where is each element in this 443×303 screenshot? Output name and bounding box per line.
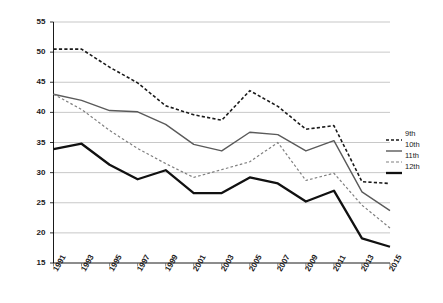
y-tick-label: 15	[24, 259, 46, 267]
gridlines	[54, 22, 391, 263]
legend-label: 11th	[405, 152, 419, 160]
y-tick-label: 30	[24, 169, 46, 177]
legend-item-10th[interactable]: 10th	[386, 139, 442, 150]
chart-legend: 9th10th11th12th	[386, 128, 442, 172]
y-tick-label: 35	[24, 139, 46, 147]
legend-swatch-icon	[386, 130, 402, 138]
y-tick-label: 40	[24, 108, 46, 116]
legend-label: 12th	[405, 163, 420, 171]
series-lines	[54, 49, 391, 247]
y-tick-label: 25	[24, 199, 46, 207]
legend-label: 9th	[405, 130, 415, 138]
line-chart: 152025303540455055 199119931995199719992…	[0, 0, 443, 303]
legend-item-12th[interactable]: 12th	[386, 161, 442, 172]
legend-item-11th[interactable]: 11th	[386, 150, 442, 161]
legend-item-9th[interactable]: 9th	[386, 128, 442, 139]
y-tick-label: 20	[24, 229, 46, 237]
y-tick-label: 50	[24, 48, 46, 56]
y-tick-label: 55	[24, 18, 46, 26]
legend-swatch-icon	[386, 141, 402, 149]
y-tick-label: 45	[24, 78, 46, 86]
x-tick-marks	[0, 0, 390, 267]
legend-swatch-icon	[386, 163, 402, 171]
legend-label: 10th	[405, 141, 420, 149]
series-line-12th	[54, 144, 391, 247]
legend-swatch-icon	[386, 152, 402, 160]
series-line-9th	[54, 49, 391, 183]
